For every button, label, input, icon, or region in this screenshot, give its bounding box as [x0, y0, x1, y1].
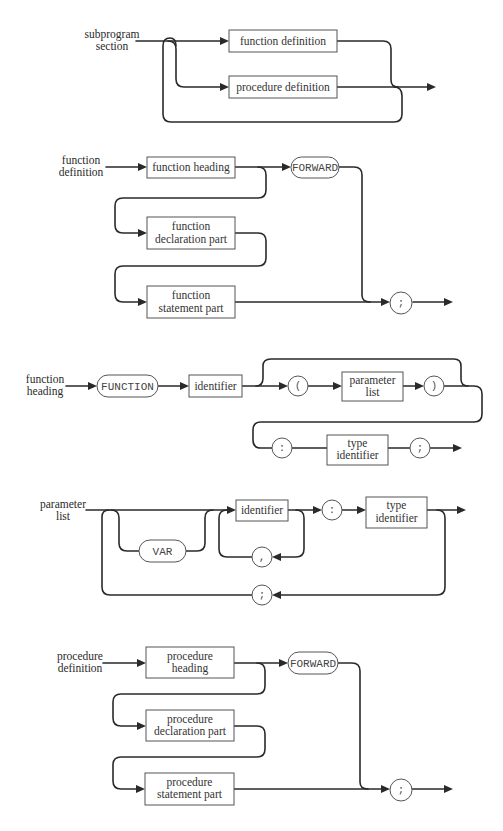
flow-line [168, 41, 222, 87]
box-label-line2: heading [172, 662, 209, 675]
terminal-label: , [259, 552, 265, 563]
box-label-line1: function [172, 289, 211, 301]
arrow-icon [136, 785, 145, 793]
terminal-label: VAR [153, 546, 173, 558]
diagram-function-definition: function definition function heading FOR… [59, 154, 453, 318]
flow-line [186, 510, 213, 551]
syntax-diagrams: subprogram section function definition p… [0, 0, 503, 831]
terminal-label: ; [398, 298, 404, 309]
diagram-label-line2: heading [27, 385, 64, 398]
arrow-icon [180, 382, 189, 390]
box-label: procedure definition [236, 81, 330, 94]
box-label: function definition [240, 35, 326, 47]
arrow-icon [444, 785, 453, 793]
box-label-line1: type [387, 499, 407, 512]
box-label-line2: statement part [159, 302, 225, 315]
arrow-icon [138, 298, 147, 306]
arrow-icon [282, 163, 291, 171]
diagram-function-heading: function heading FUNCTION identifier ( p… [26, 359, 482, 465]
arrow-icon [220, 83, 229, 91]
diagram-label-line1: function [62, 154, 101, 166]
diagram-subprogram-section: subprogram section function definition p… [85, 28, 436, 122]
arrow-icon [381, 298, 390, 306]
box-label: identifier [241, 504, 283, 516]
diagram-label-line2: definition [58, 662, 103, 674]
box-label-line1: function [172, 220, 211, 232]
arrow-icon [279, 659, 288, 667]
diagram-procedure-definition: procedure definition procedure heading F… [57, 647, 453, 805]
arrow-icon [357, 506, 366, 514]
flow-line [337, 41, 398, 87]
flow-line [339, 167, 370, 302]
flow-line [338, 663, 368, 789]
diagram-label-line2: list [56, 510, 71, 522]
arrow-icon [313, 506, 322, 514]
terminal-label: FUNCTION [101, 381, 154, 393]
terminal-label: : [279, 443, 285, 454]
diagram-label-line2: definition [59, 166, 104, 178]
terminal-label: ; [398, 785, 404, 796]
box-label: identifier [194, 380, 236, 392]
diagram-label-line1: function [26, 373, 65, 385]
box-label-line2: declaration part [155, 233, 228, 246]
box-label-line2: identifier [336, 449, 378, 461]
flow-line [111, 510, 139, 551]
box-label-line2: identifier [375, 512, 417, 524]
terminal-label: ; [417, 443, 423, 454]
terminal-label: FORWARD [290, 658, 337, 670]
arrow-icon [453, 444, 462, 452]
box-label-line2: list [365, 386, 380, 398]
arrow-icon [457, 506, 466, 514]
arrow-icon [138, 163, 147, 171]
diagram-label-line2: section [96, 40, 129, 52]
arrow-icon [279, 382, 288, 390]
arrow-icon [415, 382, 424, 390]
arrow-icon [272, 591, 281, 599]
arrow-icon [227, 506, 236, 514]
arrow-icon [137, 722, 146, 730]
arrow-icon [427, 83, 436, 91]
arrow-icon [333, 382, 342, 390]
box-label-line2: statement part [157, 788, 223, 801]
arrow-icon [137, 659, 146, 667]
arrow-icon [381, 785, 390, 793]
terminal-label: : [329, 505, 335, 516]
arrow-icon [88, 382, 97, 390]
box-label: function heading [152, 161, 230, 174]
box-label-line2: declaration part [154, 725, 227, 738]
arrow-icon [220, 37, 229, 45]
arrow-icon [138, 229, 147, 237]
arrow-icon [444, 298, 453, 306]
terminal-label: ; [259, 590, 265, 601]
terminal-label: FORWARD [292, 162, 339, 174]
diagram-parameter-list: parameter list VAR identifier , : t [40, 497, 466, 605]
terminal-label: ( [295, 381, 301, 392]
terminal-label: ) [431, 381, 437, 392]
arrow-icon [272, 553, 281, 561]
